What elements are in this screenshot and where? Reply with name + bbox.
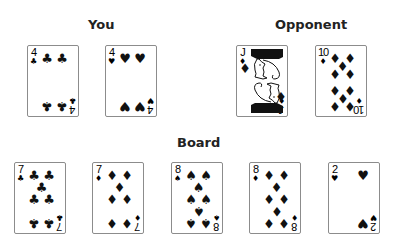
clubs-pip-icon: ♣ [43,193,56,206]
rank-label: 8 [175,165,180,174]
clubs-suit-icon: ♣ [69,96,76,105]
hearts-suit-icon: ♥ [147,96,154,105]
clubs-pip-icon: ♣ [56,100,69,113]
rank-label: 4 [109,48,114,57]
clubs-suit-icon: ♣ [17,174,24,183]
clubs-pip-icon: ♣ [41,52,54,65]
corner-index-br: 4♥ [147,96,154,114]
hearts-pip-icon: ♥ [119,100,132,113]
rank-label: 2 [371,222,376,231]
corner-index-tl: 7♣ [17,165,24,183]
diamonds-pip-icon: ♦ [329,68,342,81]
spades-suit-icon: ♠ [174,174,181,183]
diamonds-pip-icon: ♦ [239,62,252,75]
corner-index-tl: 10♦ [318,48,328,66]
corner-index-br: 4♣ [69,96,76,114]
diamonds-pip-icon: ♦ [106,193,119,206]
diamonds-pip-icon: ♦ [344,68,357,81]
you-card-2: 4♥4♥♥♥♥♥ [105,45,157,117]
clubs-pip-icon: ♣ [43,217,56,230]
spades-pip-icon: ♠ [200,217,213,230]
board-card-2: 7♦7♦♦♦♦♦♦♦♦ [92,162,144,234]
board-card-1: 7♣7♣♣♣♣♣♣♣♣ [14,162,66,234]
diamonds-pip-icon: ♦ [329,100,342,113]
corner-index-tl: 7♦ [95,165,102,183]
diamonds-pip-icon: ♦ [278,217,291,230]
hearts-pip-icon: ♥ [119,52,132,65]
clubs-suit-icon: ♣ [56,213,63,222]
diamonds-suit-icon: ♦ [320,57,327,66]
rank-label: 7 [135,222,140,231]
diamonds-suit-icon: ♦ [252,174,259,183]
diamonds-pip-icon: ♦ [121,217,134,230]
diamonds-pip-icon: ♦ [263,217,276,230]
corner-index-br: 7♣ [56,213,63,231]
board-card-5: 2♥2♥♥♥ [328,162,380,234]
rank-label: 10 [318,48,328,57]
rank-label: 7 [57,222,62,231]
rank-label: 8 [253,165,258,174]
clubs-pip-icon: ♣ [28,217,41,230]
hearts-suit-icon: ♥ [331,174,338,183]
rank-label: 8 [292,222,297,231]
diamonds-pip-icon: ♦ [106,217,119,230]
corner-index-tl: 4♣ [30,48,37,66]
corner-index-br: 8♦ [291,213,298,231]
corner-index-tl: 2♥ [331,165,338,183]
corner-index-br: 7♦ [134,213,141,231]
opponent-heading: Opponent [275,18,347,32]
rank-label: 7 [18,165,23,174]
spades-suit-icon: ♠ [213,213,220,222]
opponent-card-1: J♦J♦ ♦♦ [236,45,288,117]
corner-index-tl: 8♦ [252,165,259,183]
board-heading: Board [177,136,220,150]
corner-index-br: 2♥ [370,213,377,231]
board-card-4: 8♦8♦♦♦♦♦♦♦♦♦ [249,162,301,234]
clubs-pip-icon: ♣ [56,52,69,65]
diamonds-pip-icon: ♦ [344,100,357,113]
rank-label: 7 [96,165,101,174]
rank-label: 4 [31,48,36,57]
rank-label: 4 [148,105,153,114]
diamonds-suit-icon: ♦ [134,213,141,222]
opponent-card-2: 10♦10♦♦♦♦♦♦♦♦♦♦♦ [315,45,367,117]
hearts-pip-icon: ♥ [134,52,147,65]
rank-label: 2 [332,165,337,174]
hearts-suit-icon: ♥ [370,213,377,222]
hearts-suit-icon: ♥ [108,57,115,66]
diamonds-pip-icon: ♦ [121,193,134,206]
board-card-3: 8♠8♠♠♠♠♠♠♠♠♠ [171,162,223,234]
corner-index-br: 8♠ [213,213,220,231]
spades-pip-icon: ♠ [185,217,198,230]
diamonds-suit-icon: ♦ [95,174,102,183]
clubs-pip-icon: ♣ [28,193,41,206]
hearts-pip-icon: ♥ [134,100,147,113]
you-heading: You [88,18,114,32]
you-card-1: 4♣4♣♣♣♣♣ [27,45,79,117]
rank-label: J [240,48,245,57]
hearts-pip-icon: ♥ [357,217,370,230]
hearts-pip-icon: ♥ [357,169,370,182]
rank-label: 8 [214,222,219,231]
corner-index-tl: 4♥ [108,48,115,66]
clubs-suit-icon: ♣ [30,57,37,66]
diamonds-suit-icon: ♦ [291,213,298,222]
clubs-pip-icon: ♣ [41,100,54,113]
jack-portrait-icon [249,48,285,114]
diamonds-pip-icon: ♦ [275,90,288,103]
corner-index-tl: 8♠ [174,165,181,183]
rank-label: 4 [70,105,75,114]
